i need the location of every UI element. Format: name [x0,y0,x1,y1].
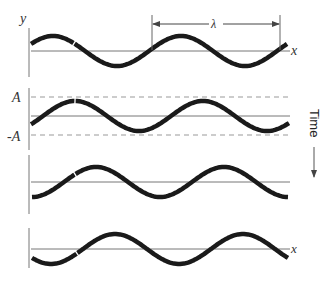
time-arrow: Time [307,109,322,177]
y-axis-label: y [18,11,27,26]
amplitude-label-negative: -A [7,129,21,144]
wave-panel-3 [29,155,290,214]
wave-panel-4 [29,228,290,268]
x-axis-label-bottom: x [290,241,297,256]
time-label: Time [307,109,322,137]
x-axis-label-top: x [290,43,298,58]
amplitude-label-positive: A [11,90,21,105]
wave-panel-1 [29,28,290,77]
wavelength-label: λ [210,17,216,31]
wavelength-indicator: λ [152,15,280,50]
wave-diagram: y x x λ A -A Time [0,0,332,284]
